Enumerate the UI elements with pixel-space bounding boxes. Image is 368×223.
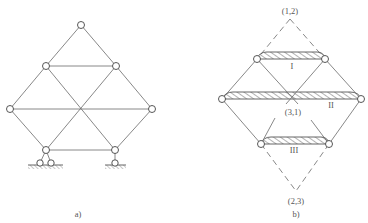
bar bbox=[81, 25, 116, 66]
rigid-body-III bbox=[261, 137, 329, 144]
pole-label-2-3: (2,3) bbox=[288, 196, 304, 206]
pole-line bbox=[296, 144, 329, 191]
rigid-body-I bbox=[257, 52, 325, 59]
hinge-node bbox=[358, 96, 365, 103]
bar bbox=[116, 66, 152, 109]
bar bbox=[115, 109, 152, 150]
bar bbox=[10, 109, 46, 150]
hinge-node bbox=[43, 63, 50, 70]
support-hinge bbox=[48, 160, 54, 166]
bar bbox=[10, 66, 46, 109]
hinge-node bbox=[7, 106, 14, 113]
hinge-node bbox=[43, 147, 50, 154]
figure-b-truss: (1,2) (3,1) (2,3) I II III b) bbox=[219, 6, 365, 219]
caption-a: a) bbox=[75, 209, 82, 219]
hinge-node bbox=[254, 56, 261, 63]
hinge-node bbox=[326, 141, 333, 148]
bar bbox=[222, 99, 261, 144]
hinge-node bbox=[258, 141, 265, 148]
pole-label-1-2: (1,2) bbox=[282, 6, 298, 16]
figure-a-truss: a) bbox=[7, 22, 156, 220]
caption-b: b) bbox=[292, 209, 299, 219]
support-hinge bbox=[112, 160, 118, 166]
support-hinge bbox=[37, 160, 43, 166]
bar bbox=[46, 25, 81, 66]
hinge-node bbox=[113, 63, 120, 70]
hinge-node bbox=[112, 147, 119, 154]
pole-label-3-1: (3,1) bbox=[285, 107, 301, 117]
diagram-canvas: a) (1,2) (3,1) (2,3) I II I bbox=[0, 0, 368, 223]
hinge-node bbox=[149, 106, 156, 113]
body-label-II: II bbox=[328, 100, 334, 110]
hinge-node bbox=[78, 22, 85, 29]
hinge-node bbox=[219, 96, 226, 103]
hinge-node bbox=[322, 56, 329, 63]
body-label-I: I bbox=[291, 61, 294, 71]
body-label-III: III bbox=[290, 145, 299, 155]
